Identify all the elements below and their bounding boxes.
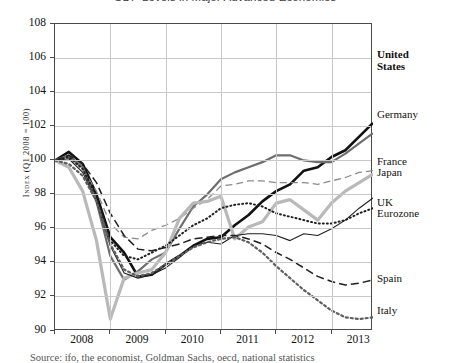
y-tick-label: 92	[0, 289, 46, 301]
gridline-horizontal	[55, 58, 371, 59]
gridline-horizontal	[55, 228, 371, 229]
series-line-germany	[55, 133, 373, 280]
x-tick-label: 2013	[338, 334, 378, 346]
gridline-horizontal	[55, 126, 371, 127]
y-tick-label: 106	[0, 51, 46, 63]
gridline-horizontal	[55, 92, 371, 93]
x-tick-label: 2012	[283, 334, 323, 346]
y-tick-label: 98	[0, 187, 46, 199]
gridline-horizontal	[55, 194, 371, 195]
series-lines	[55, 24, 373, 331]
series-label-japan: Japan	[377, 166, 402, 178]
y-tick-label: 104	[0, 85, 46, 97]
series-line-italy	[55, 160, 373, 319]
series-label-germany: Germany	[377, 108, 418, 120]
gridline-horizontal	[55, 160, 371, 161]
series-label-italy: Italy	[377, 304, 397, 316]
series-label-united-states: UnitedStates	[377, 48, 409, 72]
plot-area	[54, 23, 372, 330]
gridline-vertical	[166, 24, 167, 329]
gridline-vertical	[332, 24, 333, 329]
series-line-eurozone	[55, 157, 373, 259]
gridline-vertical	[221, 24, 222, 329]
x-tick-label: 2011	[228, 334, 268, 346]
x-tick-label: 2010	[172, 334, 212, 346]
y-tick-label: 100	[0, 153, 46, 165]
gridline-vertical	[110, 24, 111, 329]
chart-caption: Source: ifo, the economist, Goldman Sach…	[30, 352, 430, 363]
y-tick-label: 96	[0, 221, 46, 233]
series-label-eurozone: Eurozone	[377, 207, 419, 219]
gridline-vertical	[276, 24, 277, 329]
series-label-spain: Spain	[377, 272, 402, 284]
gridline-horizontal	[55, 262, 371, 263]
y-tick-label: 94	[0, 255, 46, 267]
y-tick-label: 90	[0, 324, 46, 336]
gridline-horizontal	[55, 296, 371, 297]
x-tick-label: 2008	[62, 334, 102, 346]
y-tick-label: 102	[0, 119, 46, 131]
y-tick-label: 108	[0, 17, 46, 29]
x-tick-label: 2009	[117, 334, 157, 346]
